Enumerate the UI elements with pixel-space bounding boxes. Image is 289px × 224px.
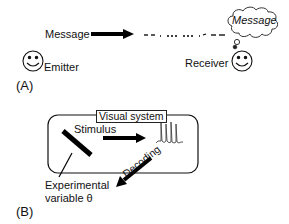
emitter-label: Emitter <box>44 61 79 73</box>
experimental-variable-line1: Experimental <box>45 179 109 191</box>
emitter-smiley-icon <box>23 51 43 71</box>
message-arrow <box>91 29 134 39</box>
message-label: Message <box>45 28 90 40</box>
receiver-label: Receiver <box>185 57 228 69</box>
visual-system-label: Visual system <box>96 110 167 123</box>
noisy-channel-line <box>144 34 225 36</box>
panel-b-label: (B) <box>16 205 33 219</box>
cloud-message-text: Message <box>232 14 277 26</box>
experimental-variable-line2: variable θ <box>45 192 93 204</box>
visual-system-box <box>48 115 198 173</box>
receiver-smiley-icon <box>232 51 252 71</box>
spike-train-icon <box>156 122 183 143</box>
stimulus-label: Stimulus <box>74 123 116 135</box>
panel-a-label: (A) <box>16 79 33 93</box>
